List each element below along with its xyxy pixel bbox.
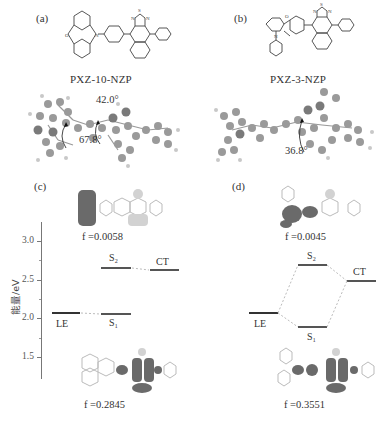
label-s2-d: S₂ [307, 250, 316, 261]
orbital-image-d-bottom [276, 348, 386, 396]
label-le-d: LE [254, 318, 266, 329]
label-s1-d: S₁ [307, 331, 316, 342]
oscillator-strength-d-bottom: f =0.3551 [284, 399, 325, 410]
label-ct-d: CT [353, 266, 366, 277]
